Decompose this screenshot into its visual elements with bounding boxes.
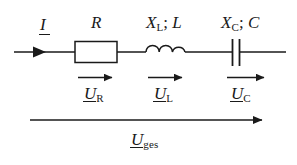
label-voltage-total-subscript: ges: [143, 138, 158, 150]
label-resistor-symbol: R: [91, 13, 101, 32]
label-voltage-resistor-underbar: [83, 101, 96, 102]
circuit-diagram: I R XL; L XC; C UR UL UC Uges: [0, 0, 297, 165]
resistor-symbol: [75, 42, 117, 63]
label-inductor-second-symbol: L: [172, 13, 181, 32]
label-current-underbar: [39, 34, 50, 35]
current-arrow-icon: [33, 47, 46, 58]
label-current: I: [40, 16, 46, 33]
label-capacitor-symbol: X: [221, 13, 231, 32]
inductor-symbol: [146, 45, 185, 52]
label-capacitor-subscript: C: [231, 21, 239, 33]
label-voltage-capacitor-underbar: [230, 101, 243, 102]
label-capacitor: XC; C: [221, 14, 259, 33]
label-voltage-capacitor-subscript: C: [243, 92, 251, 104]
label-voltage-inductor-underbar: [153, 101, 166, 102]
label-inductor-symbol: X: [146, 13, 156, 32]
label-current-symbol: I: [40, 15, 46, 34]
label-inductor-separator: ;: [163, 13, 172, 32]
label-voltage-inductor-subscript: L: [166, 92, 173, 104]
capacitor-symbol: [233, 39, 240, 66]
label-capacitor-second-symbol: C: [248, 13, 259, 32]
label-resistor: R: [91, 14, 101, 31]
label-voltage-resistor-subscript: R: [96, 92, 104, 104]
label-capacitor-separator: ;: [239, 13, 248, 32]
label-inductor: XL; L: [146, 14, 182, 33]
label-voltage-total-underbar: [130, 147, 143, 148]
